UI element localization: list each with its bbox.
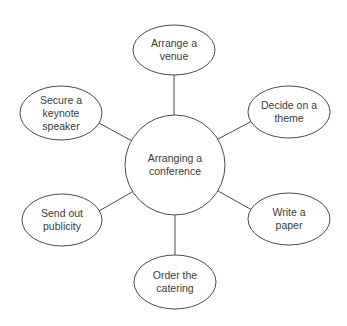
- node-paper-label-line: paper: [272, 219, 305, 232]
- node-theme-label: Decide on atheme: [261, 99, 317, 125]
- node-theme-label-line: theme: [261, 112, 317, 125]
- node-speaker-label-line: speaker: [40, 120, 82, 133]
- node-paper-label: Write apaper: [272, 206, 305, 232]
- central-node-label-line: conference: [148, 165, 202, 178]
- central-node-label: Arranging aconference: [148, 152, 202, 178]
- central-node-label-line: Arranging a: [148, 152, 202, 165]
- node-catering-label-line: catering: [153, 282, 197, 295]
- node-venue-label-line: Arrange a: [151, 37, 197, 50]
- node-publicity-label: Send outpublicity: [41, 207, 83, 233]
- edge-paper: [218, 191, 252, 210]
- node-catering-label: Order thecatering: [153, 269, 197, 295]
- node-speaker-label-line: Secure a: [40, 94, 82, 107]
- node-catering-label-line: Order the: [153, 269, 197, 282]
- edge-publicity: [99, 192, 132, 211]
- node-venue-label: Arrange avenue: [151, 37, 197, 63]
- edge-theme: [218, 121, 252, 139]
- node-publicity-label-line: Send out: [41, 207, 83, 220]
- node-theme-label-line: Decide on a: [261, 99, 317, 112]
- node-speaker-label: Secure akeynotespeaker: [40, 94, 82, 133]
- node-venue-label-line: venue: [151, 50, 197, 63]
- node-publicity-label-line: publicity: [41, 220, 83, 233]
- edge-speaker: [99, 123, 132, 141]
- mind-map-diagram: Arranging aconferenceArrange avenueDecid…: [0, 0, 347, 326]
- node-speaker-label-line: keynote: [40, 107, 82, 120]
- node-paper-label-line: Write a: [272, 206, 305, 219]
